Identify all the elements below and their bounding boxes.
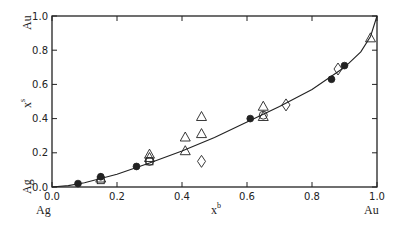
plot-border xyxy=(52,16,377,187)
x-left-label: Ag xyxy=(36,203,51,217)
x-axis-label: xb xyxy=(211,201,221,217)
y-tick-label: 0.6 xyxy=(32,79,48,90)
filled-circle-marker xyxy=(133,163,140,170)
x-tick-label: 1.0 xyxy=(369,191,385,202)
x-tick-label: 0.6 xyxy=(239,191,255,202)
filled-circle-marker xyxy=(75,180,82,187)
axis-ticks: 0.00.20.40.60.81.00.00.20.40.60.81.0 xyxy=(32,11,385,203)
data-points xyxy=(75,33,376,187)
y-bottom-label: Ag xyxy=(20,179,34,194)
fit-curve xyxy=(52,16,377,187)
y-tick-label: 0.0 xyxy=(32,182,48,193)
x-right-label: Au xyxy=(364,203,379,217)
filled-circle-marker xyxy=(247,115,254,122)
plot-frame xyxy=(52,16,377,187)
x-tick-label: 0.2 xyxy=(109,191,125,202)
filled-circle-marker xyxy=(328,76,335,83)
x-tick-label: 0.8 xyxy=(304,191,320,202)
y-tick-label: 0.4 xyxy=(32,113,48,124)
y-tick-label: 1.0 xyxy=(32,11,48,22)
x-tick-label: 0.4 xyxy=(174,191,190,202)
triangle-marker xyxy=(180,132,190,141)
triangle-marker xyxy=(258,101,268,110)
triangle-marker xyxy=(145,149,155,158)
y-top-label: Au xyxy=(20,15,34,30)
x-tick-label: 0.0 xyxy=(44,191,60,202)
triangle-marker xyxy=(197,129,207,138)
diamond-marker xyxy=(198,155,206,167)
scatter-chart: 0.00.20.40.60.81.00.00.20.40.60.81.0 Ag … xyxy=(0,0,397,225)
y-axis-label: xs xyxy=(18,99,34,108)
filled-circle-marker xyxy=(341,62,348,69)
fit-curve-line xyxy=(52,16,377,187)
y-tick-label: 0.8 xyxy=(32,45,48,56)
triangle-marker xyxy=(197,111,207,120)
y-tick-label: 0.2 xyxy=(32,147,48,158)
